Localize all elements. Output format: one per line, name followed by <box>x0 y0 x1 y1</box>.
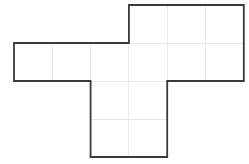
figure-background <box>0 0 249 164</box>
figure-canvas <box>0 0 249 164</box>
polyomino-figure <box>0 0 249 164</box>
